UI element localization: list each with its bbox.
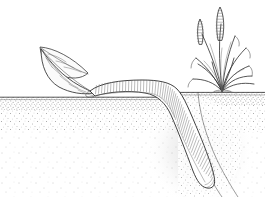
- soil-ground: [0, 92, 265, 197]
- fallen-leaf: [40, 47, 95, 96]
- seed-head-left: [197, 19, 203, 44]
- seed-head-left-outline: [198, 19, 203, 44]
- earthworm-leaf-burrow-illustration: Earthworm dragging a leaf into its burro…: [0, 0, 265, 197]
- grass-plant: [188, 7, 254, 93]
- scene-svg: [0, 0, 265, 197]
